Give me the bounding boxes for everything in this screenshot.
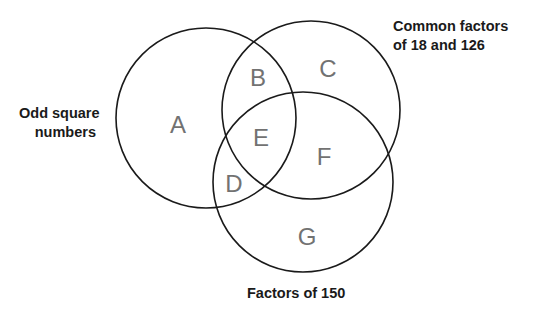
set-label-line: of 18 and 126 bbox=[393, 36, 508, 55]
region-label-g: G bbox=[298, 223, 317, 250]
region-label-c: C bbox=[319, 55, 336, 82]
set-label-line: Common factors bbox=[393, 17, 508, 36]
circle-odd-square-numbers bbox=[116, 28, 296, 208]
set-label-factors-of-150: Factors of 150 bbox=[247, 284, 345, 303]
region-label-f: F bbox=[317, 143, 332, 170]
region-label-d: D bbox=[225, 170, 242, 197]
set-label-common-factors: Common factors of 18 and 126 bbox=[393, 17, 508, 55]
set-label-line: Odd square bbox=[19, 104, 96, 123]
region-label-b: B bbox=[250, 64, 266, 91]
set-label-odd-square-numbers: Odd square numbers bbox=[19, 104, 96, 142]
set-label-line: numbers bbox=[19, 123, 96, 142]
region-label-e: E bbox=[253, 124, 269, 151]
set-label-line: Factors of 150 bbox=[247, 284, 345, 303]
region-label-a: A bbox=[170, 111, 186, 138]
